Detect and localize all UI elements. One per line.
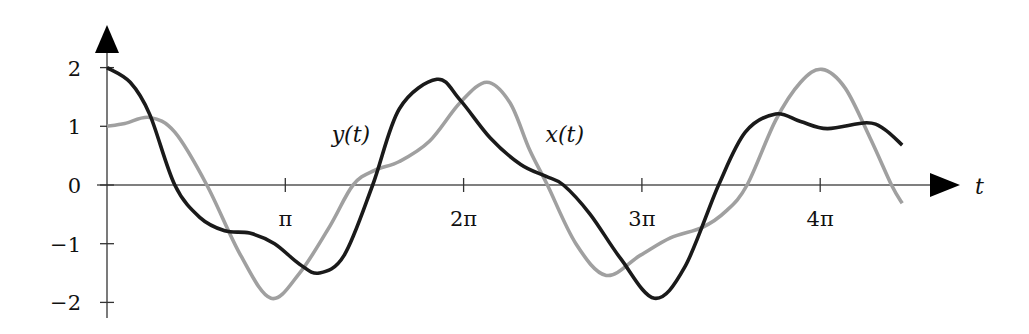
curve-labels: y(t)x(t): [331, 122, 584, 147]
x-tick-label: 2π: [450, 207, 477, 231]
y-ticks: 210−1−2: [50, 57, 114, 316]
series-xt-curve: [107, 69, 902, 298]
y-tick-label: −1: [50, 233, 81, 257]
series-yt-curve: [107, 68, 902, 299]
x-axis-arrow-icon: [930, 173, 960, 197]
x-tick-label: π: [278, 207, 292, 231]
curve-label-yt: y(t): [331, 122, 370, 147]
line-chart: t π2π3π4π 210−1−2 y(t)x(t): [0, 0, 1029, 334]
x-tick-label: 3π: [628, 207, 655, 231]
y-tick-label: 2: [68, 57, 81, 81]
y-tick-label: 0: [68, 174, 81, 198]
y-tick-label: −2: [50, 291, 81, 315]
x-axis: t π2π3π4π: [97, 173, 984, 231]
series-layer: [107, 68, 902, 299]
curve-label-xt: x(t): [546, 122, 584, 147]
y-axis-arrow-icon: [95, 25, 119, 53]
x-axis-label: t: [975, 174, 984, 199]
x-tick-label: 4π: [807, 207, 834, 231]
y-tick-label: 1: [68, 115, 81, 139]
